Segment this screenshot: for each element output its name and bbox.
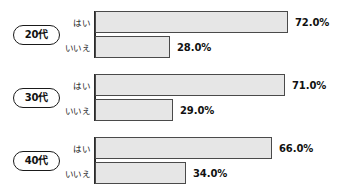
bar-value-label: 71.0%: [292, 74, 326, 96]
chart-row: はい72.0%: [0, 11, 343, 33]
answer-label: いいえ: [52, 162, 91, 184]
bar-value-label: 34.0%: [193, 162, 227, 184]
bar-value-label: 72.0%: [295, 11, 329, 33]
age-response-bar-chart: 20代はい72.0%いいえ28.0%30代はい71.0%いいえ29.0%40代は…: [0, 0, 343, 196]
answer-label: はい: [52, 74, 91, 96]
bar: [95, 137, 272, 159]
chart-group: 20代はい72.0%いいえ28.0%: [0, 11, 343, 58]
bar: [95, 11, 288, 33]
answer-label: はい: [52, 137, 91, 159]
bar-value-label: 66.0%: [279, 137, 313, 159]
chart-row: いいえ28.0%: [0, 36, 343, 58]
bar: [95, 162, 186, 184]
chart-row: いいえ29.0%: [0, 99, 343, 121]
answer-label: はい: [52, 11, 91, 33]
chart-row: はい66.0%: [0, 137, 343, 159]
chart-group: 30代はい71.0%いいえ29.0%: [0, 74, 343, 121]
bar-value-label: 28.0%: [177, 36, 211, 58]
chart-row: はい71.0%: [0, 74, 343, 96]
bar-value-label: 29.0%: [180, 99, 214, 121]
chart-row: いいえ34.0%: [0, 162, 343, 184]
chart-group: 40代はい66.0%いいえ34.0%: [0, 137, 343, 184]
bar: [95, 36, 170, 58]
bar: [95, 99, 173, 121]
answer-label: いいえ: [52, 36, 91, 58]
answer-label: いいえ: [52, 99, 91, 121]
bar: [95, 74, 285, 96]
